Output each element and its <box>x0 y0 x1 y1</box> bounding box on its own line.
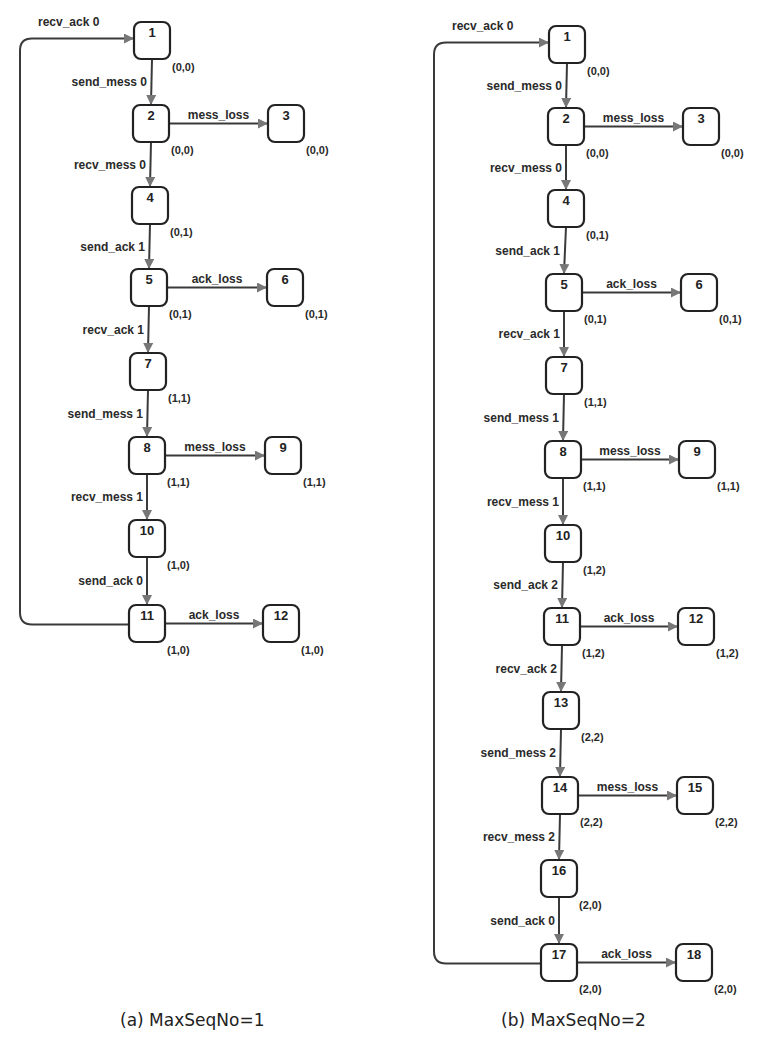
edge-label: recv_mess 1 <box>487 495 559 509</box>
node-state-label: (0,0) <box>306 144 329 156</box>
node-id: 7 <box>560 360 567 375</box>
node-state-label: (1,2) <box>582 647 605 659</box>
state-node-5: 5(0,1) <box>131 269 192 320</box>
node-id: 8 <box>143 440 150 455</box>
edge-label: send_mess 0 <box>72 75 148 89</box>
node-id: 9 <box>693 444 700 459</box>
edge-label: send_ack 1 <box>495 244 560 258</box>
node-id: 2 <box>562 111 569 126</box>
node-state-label: (1,1) <box>717 480 740 492</box>
edge-14-16 <box>559 814 560 859</box>
node-state-label: (1,0) <box>301 644 324 656</box>
edge-label: recv_ack 1 <box>499 327 561 341</box>
edge-label: ack_loss <box>606 277 657 291</box>
node-state-label: (1,0) <box>167 559 190 571</box>
state-node-10: 10(1,0) <box>129 520 190 571</box>
node-id: 5 <box>145 272 152 287</box>
node-state-label: (0,1) <box>719 313 742 325</box>
node-state-label: (1,1) <box>583 480 606 492</box>
node-id: 4 <box>146 190 154 205</box>
node-state-label: (1,1) <box>303 476 326 488</box>
edge-label: send_mess 1 <box>68 407 144 421</box>
state-node-3: 3(0,0) <box>683 108 744 159</box>
state-node-2: 2(0,0) <box>548 108 609 159</box>
diagram-maxseqno-1: send_mess 0mess_lossrecv_mess 0send_ack … <box>20 15 329 656</box>
state-node-8: 8(1,1) <box>545 441 606 492</box>
node-id: 11 <box>140 608 154 623</box>
state-node-7: 7(1,1) <box>130 353 191 404</box>
node-id: 7 <box>144 356 151 371</box>
edge-label: recv_mess 1 <box>71 490 143 504</box>
node-id: 18 <box>687 947 701 962</box>
state-node-8: 8(1,1) <box>129 437 190 488</box>
node-id: 8 <box>559 444 566 459</box>
edge-4-5 <box>564 227 566 273</box>
edge-label: recv_mess 0 <box>490 161 562 175</box>
edge-13-14 <box>560 729 561 776</box>
state-node-7: 7(1,1) <box>546 357 607 408</box>
edge-1-2 <box>566 63 567 107</box>
node-id: 6 <box>695 277 702 292</box>
node-state-label: (1,1) <box>168 392 191 404</box>
node-id: 3 <box>282 108 289 123</box>
state-node-11: 11(1,0) <box>129 605 190 656</box>
node-id: 1 <box>148 25 155 40</box>
edge-label: send_ack 2 <box>493 578 558 592</box>
edge-1-2 <box>151 59 152 104</box>
node-state-label: (1,0) <box>167 644 190 656</box>
node-id: 11 <box>555 611 569 626</box>
node-state-label: (1,2) <box>716 647 739 659</box>
state-node-10: 10(1,2) <box>545 525 606 576</box>
state-node-4: 4(0,1) <box>132 187 193 238</box>
node-id: 10 <box>556 528 570 543</box>
edge-label: recv_ack 2 <box>496 662 558 676</box>
node-state-label: (0,0) <box>172 61 195 73</box>
node-id: 14 <box>553 780 568 795</box>
node-state-label: (0,1) <box>169 308 192 320</box>
edge-label: mess_loss <box>184 440 246 454</box>
edge-label: recv_ack 0 <box>38 15 100 29</box>
edge-label: mess_loss <box>188 108 250 122</box>
state-node-16: 16(2,0) <box>541 860 602 911</box>
edge-5-7 <box>148 306 149 352</box>
edge-7-8 <box>563 394 564 440</box>
node-state-label: (2,2) <box>580 816 603 828</box>
edge-label: recv_mess 2 <box>483 830 555 844</box>
node-id: 3 <box>697 111 704 126</box>
node-state-label: (0,0) <box>587 65 610 77</box>
node-id: 9 <box>279 440 286 455</box>
edge-label: send_ack 1 <box>80 240 145 254</box>
node-state-label: (0,1) <box>584 313 607 325</box>
state-node-11: 11(1,2) <box>544 608 605 659</box>
edge-label: send_mess 1 <box>484 411 560 425</box>
edge-label: send_ack 0 <box>78 574 143 588</box>
edge-label: send_mess 0 <box>487 79 563 93</box>
node-id: 10 <box>140 523 154 538</box>
state-node-4: 4(0,1) <box>548 190 609 241</box>
state-node-3: 3(0,0) <box>268 105 329 156</box>
node-id: 15 <box>688 780 702 795</box>
node-id: 17 <box>552 947 566 962</box>
node-state-label: (0,0) <box>171 144 194 156</box>
node-state-label: (2,0) <box>714 983 737 995</box>
node-id: 12 <box>689 611 703 626</box>
edge-7-8 <box>147 390 148 436</box>
state-node-9: 9(1,1) <box>679 441 740 492</box>
state-node-18: 18(2,0) <box>676 944 737 995</box>
state-node-1: 1(0,0) <box>134 22 195 73</box>
edge-label: ack_loss <box>192 272 243 286</box>
node-state-label: (0,1) <box>305 308 328 320</box>
state-node-12: 12(1,0) <box>263 605 324 656</box>
edge-4-5 <box>149 224 150 268</box>
node-state-label: (1,1) <box>584 396 607 408</box>
edge-label: mess_loss <box>597 780 659 794</box>
edge-label: recv_ack 1 <box>83 323 145 337</box>
edge-label: recv_mess 0 <box>74 158 146 172</box>
node-id: 13 <box>554 695 568 710</box>
edge-label: recv_ack 0 <box>452 19 514 33</box>
node-state-label: (2,2) <box>715 816 738 828</box>
edge-label: send_ack 0 <box>490 914 555 928</box>
node-id: 12 <box>274 608 288 623</box>
node-id: 5 <box>560 277 567 292</box>
state-node-17: 17(2,0) <box>541 944 602 995</box>
